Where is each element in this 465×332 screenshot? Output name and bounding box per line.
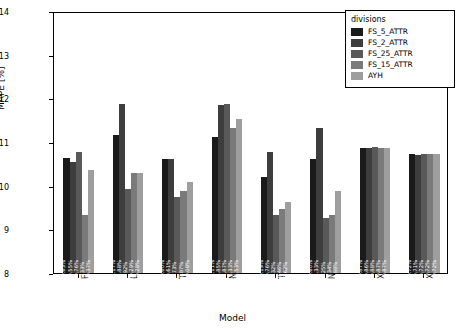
- legend-swatch: [351, 61, 363, 69]
- bar-value-label: 11.53%: [233, 260, 239, 280]
- legend: divisions FS_5_ATTRFS_2_ATTRFS_25_ATTRFS…: [345, 10, 455, 88]
- bar: 9.62%: [285, 202, 291, 273]
- bar-value-label: 11.85%: [215, 260, 221, 280]
- bar-value-label: 11.87%: [221, 260, 227, 280]
- legend-swatch: [351, 50, 363, 58]
- bar-value-label: 11.17%: [110, 260, 116, 280]
- bar: 9.88%: [335, 191, 341, 273]
- legend-label: FS_5_ATTR: [368, 27, 408, 36]
- legend-label: FS_2_ATTR: [368, 38, 408, 47]
- chart-root: MAPE [%] Model 891011121314 FORLINTRENEU…: [0, 0, 465, 332]
- bar-group: 10.19%10.76%9.32%9.46%9.62%: [261, 11, 292, 273]
- legend-swatch: [351, 39, 363, 47]
- bar: 11.53%: [236, 119, 242, 273]
- bar-group: 10.63%10.55%10.76%9.33%10.37%: [63, 11, 94, 273]
- bar-value-label: 10.87%: [357, 260, 363, 280]
- bar-value-label: 9.62%: [282, 262, 288, 278]
- bar-value-label: 9.33%: [79, 262, 85, 278]
- bar-value-label: 10.63%: [60, 260, 66, 280]
- y-tick-label: 11: [0, 139, 9, 148]
- bar-value-label: 9.73%: [171, 262, 177, 278]
- bar: 10.87%: [384, 148, 390, 273]
- bar-value-label: 10.87%: [381, 260, 387, 280]
- bar-value-label: 10.86%: [363, 260, 369, 280]
- legend-item: FS_5_ATTR: [351, 27, 449, 36]
- legend-item: AYH: [351, 71, 449, 80]
- bar-value-label: 10.37%: [85, 260, 91, 280]
- legend-title: divisions: [351, 15, 449, 24]
- legend-swatch: [351, 72, 363, 80]
- legend-swatch: [351, 28, 363, 36]
- y-tick-label: 10: [0, 182, 9, 191]
- bar-group: 10.60%11.33%9.25%9.34%9.88%: [310, 11, 341, 273]
- bar-value-label: 10.08%: [184, 260, 190, 280]
- legend-item: FS_15_ATTR: [351, 60, 449, 69]
- bar-group: 10.60%10.61%9.73%9.87%10.08%: [162, 11, 193, 273]
- legend-label: FS_25_ATTR: [368, 49, 413, 58]
- bar-value-label: 10.72%: [431, 260, 437, 280]
- bar-value-label: 9.25%: [320, 262, 326, 278]
- bar-value-label: 10.76%: [73, 260, 79, 280]
- y-tick-label: 8: [0, 270, 9, 279]
- legend-item: FS_2_ATTR: [351, 38, 449, 47]
- bar: 10.72%: [433, 154, 439, 273]
- bar-group: 11.17%11.88%9.92%10.29%10.28%: [113, 11, 144, 273]
- y-tick-label: 13: [0, 51, 9, 60]
- bar-value-label: 10.28%: [134, 260, 140, 280]
- y-tick-label: 12: [0, 95, 9, 104]
- bar-value-label: 9.87%: [178, 262, 184, 278]
- legend-entries: FS_5_ATTRFS_2_ATTRFS_25_ATTRFS_15_ATTRAY…: [351, 27, 449, 80]
- bar-value-label: 11.33%: [227, 260, 233, 280]
- bar-value-label: 9.88%: [332, 262, 338, 278]
- bar: 10.37%: [88, 170, 94, 273]
- x-axis-label: Model: [0, 313, 465, 323]
- y-tick-mark: [49, 274, 53, 275]
- bar-value-label: 9.34%: [326, 262, 332, 278]
- bar-value-label: 11.33%: [313, 260, 319, 280]
- y-tick-label: 14: [0, 8, 9, 17]
- bar-value-label: 11.11%: [209, 260, 215, 280]
- bar: 10.28%: [137, 173, 143, 273]
- bar: 10.08%: [187, 182, 193, 273]
- legend-label: FS_15_ATTR: [368, 60, 413, 69]
- y-tick-label: 9: [0, 226, 9, 235]
- bar-value-label: 10.72%: [424, 260, 430, 280]
- legend-label: AYH: [368, 71, 383, 80]
- bar-group: 11.11%11.85%11.87%11.33%11.53%: [212, 11, 243, 273]
- bar-value-label: 10.55%: [67, 260, 73, 280]
- legend-item: FS_25_ATTR: [351, 49, 449, 58]
